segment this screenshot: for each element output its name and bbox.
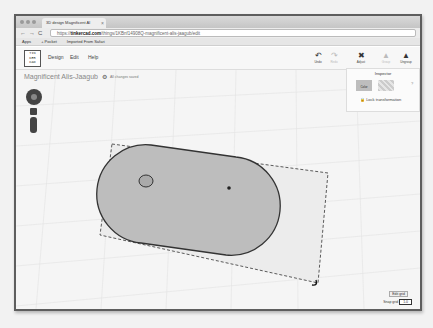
view-navigation-pad[interactable]	[26, 89, 42, 105]
menu-design[interactable]: Design	[48, 54, 64, 60]
bookmark-imported[interactable]: Imported From Safari	[67, 38, 105, 45]
url-input[interactable]: https://tinkercad.com/things/1KBnf14908Q…	[50, 29, 416, 37]
group-button[interactable]: ▲ Group	[378, 51, 394, 64]
ungroup-button[interactable]: ▲ Ungroup	[398, 51, 414, 64]
url-prefix: https://	[57, 31, 71, 36]
adjust-button[interactable]: ✖ Adjust	[353, 51, 369, 64]
lock-transformation-toggle[interactable]: 🔒 Lock transformation	[360, 97, 401, 102]
redo-icon: ↷	[326, 51, 342, 60]
ungroup-label: Ungroup	[398, 60, 414, 64]
minimize-window-button[interactable]	[26, 20, 30, 24]
bookmarks-bar: Apps + Pocket Imported From Safari	[16, 38, 420, 46]
browser-tab[interactable]: 3D design Magnificent Al ×	[42, 18, 106, 28]
tab-bar: 3D design Magnificent Al ×	[16, 16, 420, 28]
hole-button[interactable]	[378, 80, 394, 91]
height-handle-icon[interactable]	[227, 186, 231, 190]
menu-edit[interactable]: Edit	[70, 54, 79, 60]
solid-color-button[interactable]: Color	[356, 80, 372, 91]
browser-window: 3D design Magnificent Al × ← → C https:/…	[14, 14, 422, 311]
group-icon: ▲	[378, 51, 394, 60]
close-tab-icon[interactable]: ×	[101, 18, 104, 28]
zoom-slider[interactable]	[30, 117, 37, 133]
tinkercad-logo[interactable]: TINKERCAD	[24, 50, 41, 67]
bookmark-apps[interactable]: Apps	[22, 38, 31, 45]
adjust-icon: ✖	[353, 51, 369, 60]
redo-button[interactable]: ↷ Redo	[326, 51, 342, 64]
undo-icon: ↶	[310, 51, 326, 60]
reload-icon[interactable]: C	[38, 29, 42, 37]
undo-button[interactable]: ↶ Undo	[310, 51, 326, 64]
tab-title: 3D design Magnificent Al	[46, 20, 90, 25]
bookmark-pocket[interactable]: + Pocket	[41, 38, 57, 45]
adjust-label: Adjust	[353, 60, 369, 64]
redo-label: Redo	[326, 60, 342, 64]
ungroup-icon: ▲	[398, 51, 414, 60]
selected-shape[interactable]	[97, 145, 280, 256]
maximize-window-button[interactable]	[32, 20, 36, 24]
edit-grid-button[interactable]: Edit grid	[389, 291, 408, 297]
menu-help[interactable]: Help	[88, 54, 98, 60]
inspector-title: Inspector	[347, 71, 419, 76]
close-window-button[interactable]	[20, 20, 24, 24]
save-status: All changes saved	[110, 75, 138, 79]
snap-grid-control: Snap grid 1.0	[383, 299, 412, 305]
snap-grid-label: Snap grid	[383, 300, 398, 304]
app-toolbar: TINKERCAD Design Edit Help ↶ Undo ↷ Redo…	[16, 47, 420, 70]
hole-shape[interactable]	[139, 175, 153, 187]
url-path: /things/1KBnf14908Q-magnificent-alis-jaa…	[101, 31, 200, 36]
undo-label: Undo	[310, 60, 326, 64]
window-controls	[20, 20, 36, 24]
address-bar-row: ← → C https://tinkercad.com/things/1KBnf…	[16, 28, 420, 38]
settings-gear-icon[interactable]: ⚙	[102, 73, 107, 80]
help-icon[interactable]: ?	[411, 81, 413, 86]
snap-grid-select[interactable]: 1.0	[399, 299, 412, 305]
home-view-button[interactable]	[30, 108, 37, 115]
url-domain: tinkercad.com	[71, 31, 102, 36]
inspector-panel: Inspector Color ? 🔒 Lock transformation	[346, 68, 420, 112]
design-title[interactable]: Magnificent Alis-Jaagub	[24, 73, 98, 80]
lock-label: Lock transformation	[366, 97, 401, 102]
back-icon[interactable]: ←	[20, 29, 26, 37]
group-label: Group	[378, 60, 394, 64]
forward-icon[interactable]: →	[29, 29, 35, 37]
orbit-center-icon[interactable]	[31, 94, 37, 100]
